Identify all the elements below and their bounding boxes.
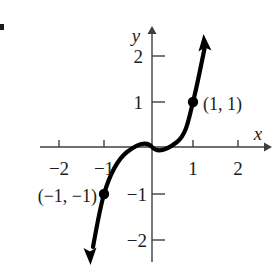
y-tick-label-neg1: −1 [127,184,147,205]
x-axis-arrow-icon [264,143,272,152]
point-dot-neg1-neg1 [99,189,109,199]
x-tick-label-pos1: 1 [188,158,198,179]
x-tick-label-neg2: −2 [49,158,69,179]
corner-bullet-mark [0,24,4,30]
y-tick-label-pos1: 1 [134,92,144,113]
graph-figure: −2 −1 1 2 2 1 −1 −2 y x (1, 1) (−1, −1) [0,0,277,275]
x-tick-label-pos2: 2 [233,158,243,179]
annotated-points-group [99,97,198,199]
x-axis-label: x [253,123,263,144]
point-label-1-1: (1, 1) [203,94,242,115]
curve-group [84,34,212,265]
tick-labels-group: −2 −1 1 2 2 1 −1 −2 [49,46,243,251]
x-tick-label-neg1: −1 [94,158,114,179]
cube-root-function-plot: −2 −1 1 2 2 1 −1 −2 y x (1, 1) (−1, −1) [0,0,277,275]
axes-group [40,26,272,262]
curve-arrow-down-icon [84,248,97,266]
y-axis-arrow-icon [148,26,157,34]
y-tick-label-neg2: −2 [127,230,147,251]
y-tick-label-pos2: 2 [134,46,144,67]
point-label-neg1-neg1: (−1, −1) [38,186,97,207]
y-axis-label: y [130,25,141,46]
point-dot-1-1 [188,97,198,107]
